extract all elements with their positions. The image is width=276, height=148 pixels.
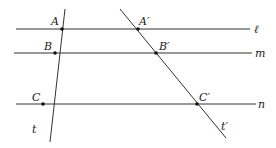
line-label: ℓ <box>254 23 259 36</box>
point-label: C′ <box>199 91 210 104</box>
point-label: B′ <box>158 40 170 53</box>
line-label: n <box>258 98 265 111</box>
intersection-point <box>154 51 158 55</box>
intersection-point <box>60 27 64 31</box>
transversal-line-1 <box>120 9 226 138</box>
transversal-label: t′ <box>221 120 228 133</box>
intersection-point <box>53 51 57 55</box>
diagram-svg: ℓmntt′ABCA′B′C′ <box>0 0 276 148</box>
line-label: m <box>255 47 265 60</box>
parallel-lines-diagram: ℓmntt′ABCA′B′C′ <box>0 0 276 148</box>
point-label: A′ <box>138 15 150 28</box>
point-label: A <box>50 15 59 28</box>
transversal-label: t <box>32 123 37 136</box>
intersection-point <box>41 102 45 106</box>
point-label: B <box>43 40 52 53</box>
point-label: C <box>32 91 41 104</box>
